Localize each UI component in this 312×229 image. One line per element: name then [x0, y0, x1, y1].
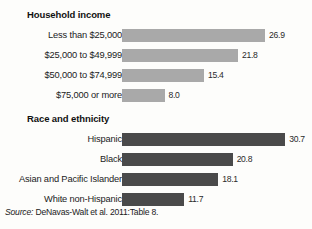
- bar-track: [122, 29, 265, 42]
- bar-row: $50,000 to $74,99915.4: [0, 69, 312, 82]
- bar-value-label: 8.0: [169, 89, 180, 102]
- bar-category-label: Black: [0, 153, 122, 166]
- bar-fill: [122, 49, 238, 62]
- bar-track: [122, 69, 204, 82]
- bar-track: [122, 153, 233, 166]
- bar-track: [122, 49, 238, 62]
- bar-fill: [122, 173, 218, 186]
- bar-row: Asian and Pacific Islander18.1: [0, 173, 312, 186]
- bar-fill: [122, 153, 233, 166]
- bar-row: Black20.8: [0, 153, 312, 166]
- bar-value-label: 20.8: [237, 153, 253, 166]
- bar-chart-figure: Household income Less than $25,00026.9$2…: [0, 0, 312, 229]
- bar-value-label: 26.9: [269, 29, 285, 42]
- bar-category-label: White non-Hispanic: [0, 193, 122, 206]
- bar-row: Hispanic30.7: [0, 133, 312, 146]
- bar-track: [122, 133, 285, 146]
- bar-row: White non-Hispanic11.7: [0, 193, 312, 206]
- bar-value-label: 11.7: [188, 193, 203, 206]
- bar-track: [122, 173, 218, 186]
- bar-category-label: Hispanic: [0, 133, 122, 146]
- bar-value-label: 18.1: [222, 173, 238, 186]
- section-heading-household-income: Household income: [27, 9, 110, 20]
- bar-row: $75,000 or more8.0: [0, 89, 312, 102]
- bar-track: [122, 193, 184, 206]
- source-note: Source: DeNavas-Walt et al. 2011:Table 8…: [5, 207, 158, 217]
- bar-category-label: $75,000 or more: [0, 89, 122, 102]
- bar-row: $25,000 to $49,99921.8: [0, 49, 312, 62]
- bar-fill: [122, 133, 285, 146]
- source-text: DeNavas-Walt et al. 2011:Table 8.: [33, 207, 158, 217]
- bar-value-label: 15.4: [208, 69, 224, 82]
- bar-category-label: Less than $25,000: [0, 29, 122, 42]
- bar-fill: [122, 29, 265, 42]
- bar-value-label: 30.7: [289, 133, 305, 146]
- bar-fill: [122, 193, 184, 206]
- bar-value-label: 21.8: [242, 49, 258, 62]
- bar-track: [122, 89, 165, 102]
- bar-fill: [122, 89, 165, 102]
- source-label: Source:: [5, 207, 33, 217]
- bar-fill: [122, 69, 204, 82]
- section-heading-race-ethnicity: Race and ethnicity: [27, 113, 109, 124]
- bar-category-label: $25,000 to $49,999: [0, 49, 122, 62]
- bar-category-label: Asian and Pacific Islander: [0, 173, 122, 186]
- bar-category-label: $50,000 to $74,999: [0, 69, 122, 82]
- bar-row: Less than $25,00026.9: [0, 29, 312, 42]
